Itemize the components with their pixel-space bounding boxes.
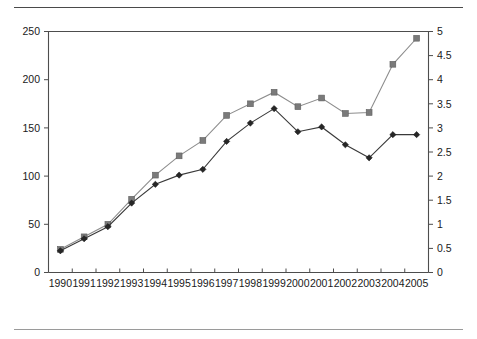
y-right-tick-label-1: 0.5 <box>437 242 452 254</box>
x-axis-label-1997: 1997 <box>215 277 239 289</box>
y-left-tick-label-3: 150 <box>22 122 40 134</box>
series-percent-of-gdp <box>57 106 419 254</box>
data-point-2005[interactable] <box>414 132 420 138</box>
x-axis-label-1994: 1994 <box>144 277 168 289</box>
data-point-1995[interactable] <box>176 172 182 178</box>
x-axis-label-1998: 1998 <box>239 277 263 289</box>
y-right-tick-label-4: 2 <box>437 170 443 182</box>
top-divider-rule <box>14 7 463 8</box>
x-axis-label-1996: 1996 <box>191 277 215 289</box>
y-left-tick-label-4: 200 <box>22 73 40 85</box>
data-point-2003[interactable] <box>366 110 372 116</box>
x-axis-label-2000: 2000 <box>286 277 310 289</box>
x-axis-labels: 1990199119921993199419951996199719981999… <box>49 277 429 289</box>
x-axis-label-2001: 2001 <box>310 277 334 289</box>
y-left-tick-label-0: 0 <box>34 266 40 278</box>
data-point-1995[interactable] <box>176 153 182 159</box>
x-axis-label-2002: 2002 <box>334 277 358 289</box>
data-point-1996[interactable] <box>200 138 206 144</box>
chart-area: 0 50 100 150 200 250 0 0.5 1 <box>0 14 477 314</box>
data-point-1994[interactable] <box>152 172 158 178</box>
y-right-tick-label-7: 3.5 <box>437 98 452 110</box>
series-line <box>60 38 416 249</box>
y-left-tick-label-5: 250 <box>22 25 40 37</box>
y-right-tick-label-8: 4 <box>437 73 443 85</box>
series-line <box>60 109 416 251</box>
data-point-2002[interactable] <box>342 111 348 117</box>
x-axis-label-2003: 2003 <box>357 277 381 289</box>
y-right-tick-label-2: 1 <box>437 218 443 230</box>
data-point-2004[interactable] <box>390 61 396 67</box>
x-axis-label-2005: 2005 <box>405 277 429 289</box>
data-point-2001[interactable] <box>319 95 325 101</box>
x-axis-label-1991: 1991 <box>72 277 96 289</box>
bottom-divider-rule <box>14 329 463 330</box>
figure-container: 0 50 100 150 200 250 0 0.5 1 <box>0 0 477 339</box>
data-point-1999[interactable] <box>271 89 277 95</box>
axes <box>49 31 429 273</box>
x-axis-label-1993: 1993 <box>120 277 144 289</box>
x-axis-label-1995: 1995 <box>167 277 191 289</box>
data-point-2005[interactable] <box>414 35 420 41</box>
y-right-tick-label-9: 4.5 <box>437 49 452 61</box>
x-axis-label-1992: 1992 <box>96 277 120 289</box>
y-right-tick-label-6: 3 <box>437 122 443 134</box>
y-right-tick-label-10: 5 <box>437 25 443 37</box>
y-right-tick-label-0: 0 <box>437 266 443 278</box>
y-right-tick-label-5: 2.5 <box>437 146 452 158</box>
x-axis-label-1990: 1990 <box>49 277 73 289</box>
data-point-2000[interactable] <box>295 104 301 110</box>
y-right-tick-label-3: 1.5 <box>437 194 452 206</box>
y-axis-right-ticks: 0 0.5 1 1.5 2 2.5 3 3.5 4 4.5 <box>429 25 452 278</box>
x-axis-label-1999: 1999 <box>262 277 286 289</box>
y-left-tick-label-1: 50 <box>28 218 40 230</box>
series-billions-of-dollars <box>57 35 419 252</box>
line-chart: 0 50 100 150 200 250 0 0.5 1 <box>0 14 477 314</box>
data-point-1998[interactable] <box>247 101 253 107</box>
x-axis-label-2004: 2004 <box>381 277 405 289</box>
y-left-tick-label-2: 100 <box>22 170 40 182</box>
y-axis-left-ticks: 0 50 100 150 200 250 <box>22 25 48 278</box>
x-axis-ticks <box>49 269 429 273</box>
data-point-1997[interactable] <box>224 112 230 118</box>
